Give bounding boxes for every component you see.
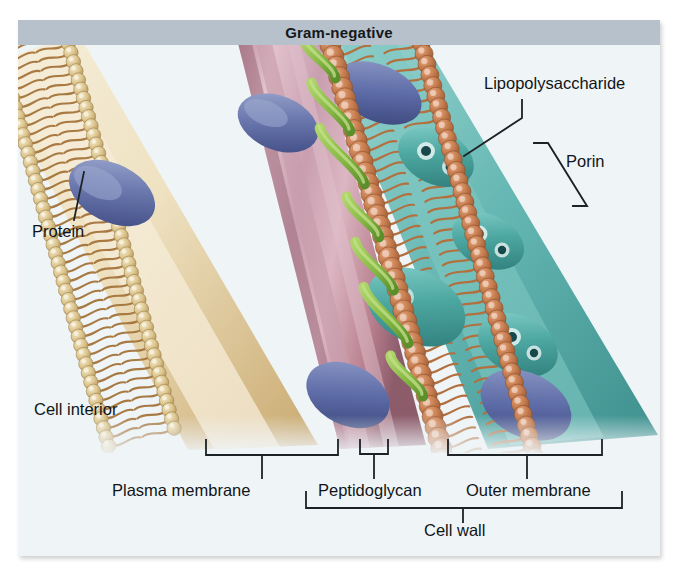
label-protein: Protein (32, 222, 84, 241)
membrane-illustration (18, 45, 660, 556)
label-outer-membrane: Outer membrane (466, 481, 591, 500)
label-porin: Porin (566, 152, 605, 171)
label-cell-interior: Cell interior (34, 400, 117, 419)
label-lipopolysaccharide: Lipopolysaccharide (484, 74, 625, 93)
membrane-artwork-svg (18, 45, 660, 556)
page-title: Gram-negative (285, 24, 393, 41)
figure-title-bar: Gram-negative (18, 20, 660, 45)
gram-negative-figure: Gram-negative (0, 0, 675, 576)
label-plasma-membrane: Plasma membrane (112, 481, 250, 500)
label-cell-wall: Cell wall (424, 521, 485, 540)
label-peptidoglycan: Peptidoglycan (318, 481, 422, 500)
